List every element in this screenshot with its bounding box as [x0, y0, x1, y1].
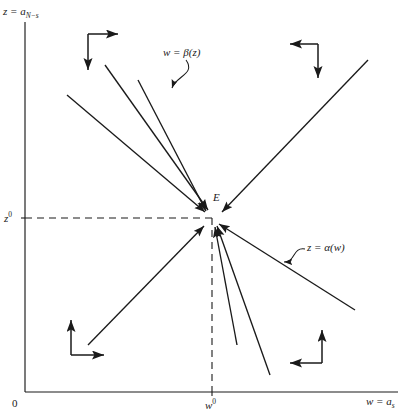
quadrant-arrow-bottom-left: [71, 320, 104, 355]
curve-inner-shallow-lower-left: [88, 226, 204, 345]
quadrant-arrow-bottom-right: [290, 330, 322, 363]
phase-diagram: z = aN−s w = as 0 z0 w0 w = β(z) z = α(w…: [0, 0, 409, 418]
x-axis-label: w = as: [366, 396, 395, 410]
curve-inner-steep-lower: [215, 227, 237, 345]
diagram-canvas: [0, 0, 409, 418]
alpha-label-leader-arrow: [284, 249, 305, 262]
curve-beta-upper-branch: [105, 65, 208, 210]
curve-inner-steep-upper: [138, 80, 206, 211]
callout-leaders: [172, 60, 305, 262]
origin-label: 0: [12, 398, 18, 409]
curve-alpha-label: z = α(w): [307, 242, 345, 253]
curve-beta-lower-branch: [217, 226, 270, 375]
curve-beta: [105, 65, 270, 375]
z0-tick-label: z0: [4, 211, 12, 224]
curve-alpha: [67, 95, 355, 310]
curve-alpha-right-branch: [219, 224, 355, 310]
beta-label-leader-arrow: [172, 60, 189, 88]
equilibrium-guides: [25, 218, 212, 392]
equilibrium-point-label: E: [213, 192, 220, 203]
curve-beta-label: w = β(z): [163, 47, 200, 58]
curve-alpha-left-branch: [67, 95, 205, 212]
quadrant-arrow-top-right: [290, 44, 318, 78]
curve-inner-steep: [138, 80, 237, 345]
y-axis-label: z = aN−s: [3, 6, 39, 20]
curve-inner-shallow-upper-right: [222, 60, 368, 212]
tick-marks: [21, 218, 212, 396]
axis-lines: [25, 22, 398, 392]
curve-inner-shallow: [88, 60, 368, 345]
quadrant-arrow-top-left: [88, 34, 118, 70]
w0-tick-label: w0: [205, 398, 216, 411]
